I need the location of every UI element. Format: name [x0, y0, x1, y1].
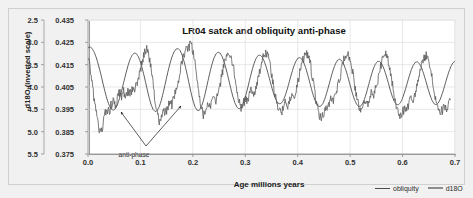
chart-svg: [0, 0, 473, 198]
annotation-leader-lines: [121, 106, 181, 146]
annotation-arrow-left: [121, 112, 146, 146]
annotation-arrow-right: [146, 106, 181, 146]
